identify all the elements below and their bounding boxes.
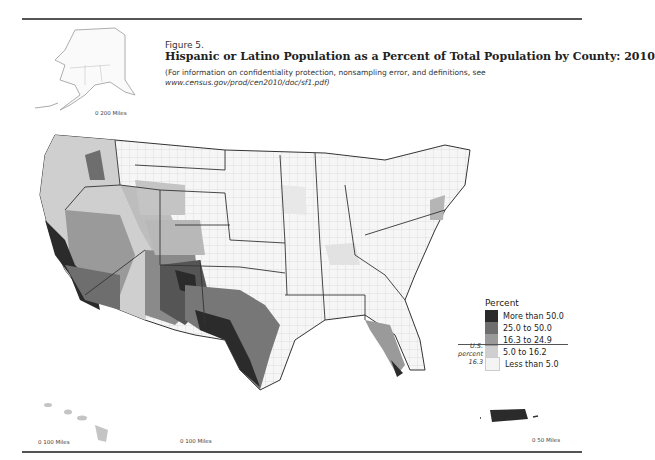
scale-zero: 0 <box>38 439 42 445</box>
scale-zero: 0 <box>532 437 536 443</box>
scale-label: 200 Miles <box>100 110 126 116</box>
scale-label: 100 Miles <box>185 438 211 444</box>
alaska-scale-bar: 0 200 Miles <box>95 110 127 116</box>
scale-zero: 0 <box>95 110 99 116</box>
legend-item: More than 50.0 <box>485 310 564 322</box>
legend-item: 25.0 to 50.0 <box>485 322 564 334</box>
conus-scale-bar: 0 100 Miles <box>180 438 212 444</box>
legend-swatch <box>485 357 500 371</box>
note-url: www.census.gov/prod/cen2010/doc/sf1.pdf) <box>165 78 486 88</box>
scale-zero: 0 <box>180 438 184 444</box>
legend-swatch <box>485 322 498 334</box>
bottom-rule <box>22 451 582 453</box>
puerto-rico-inset-map <box>480 405 560 430</box>
us-label: U.S. <box>458 342 483 350</box>
scale-label: 50 Miles <box>537 437 560 443</box>
legend-title: Percent <box>485 298 564 308</box>
percent-label: percent <box>458 350 483 358</box>
us-percent-value: 16.3 <box>458 358 483 366</box>
scale-label: 100 Miles <box>43 439 69 445</box>
alaska-inset-map <box>30 20 140 115</box>
figure-note: (For information on confidentiality prot… <box>165 68 486 88</box>
figure-label: Figure 5. <box>165 40 204 50</box>
legend-label: Less than 5.0 <box>505 360 559 369</box>
map-legend: Percent More than 50.0 25.0 to 50.0 16.3… <box>485 298 564 370</box>
us-percent-label: U.S. percent 16.3 <box>458 342 483 366</box>
legend-swatch <box>485 310 498 322</box>
puerto-rico-scale-bar: 0 50 Miles <box>532 437 560 443</box>
legend-label: 5.0 to 16.2 <box>503 348 547 357</box>
legend-item: Less than 5.0 <box>485 358 564 370</box>
legend-label: More than 50.0 <box>503 312 564 321</box>
note-text: (For information on confidentiality prot… <box>165 68 486 78</box>
conus-choropleth-map <box>25 125 485 400</box>
figure-title: Hispanic or Latino Population as a Perce… <box>165 50 655 63</box>
hawaii-scale-bar: 0 100 Miles <box>38 439 70 445</box>
legend-label: 25.0 to 50.0 <box>503 324 552 333</box>
